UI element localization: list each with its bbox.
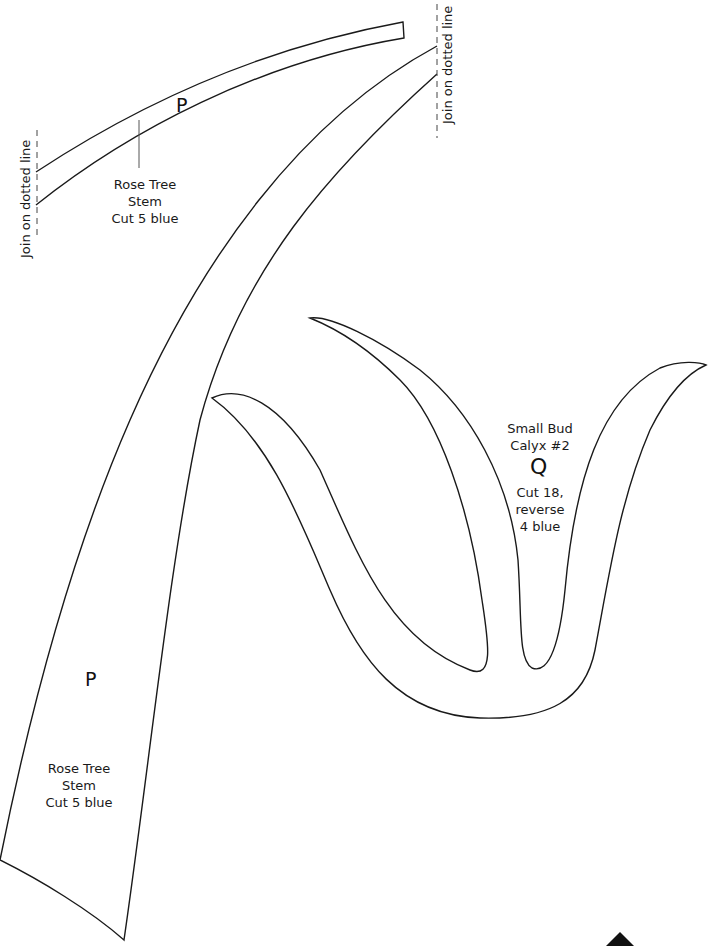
label-line: Small Bud — [490, 420, 590, 437]
label-line: Stem — [100, 193, 190, 210]
label-line: Cut 5 blue — [100, 210, 190, 227]
calyx-outline — [212, 318, 706, 718]
label-line: Stem — [34, 777, 124, 794]
piece-label-calyx-title: Small Bud Calyx #2 — [490, 420, 590, 454]
label-line: Rose Tree — [34, 760, 124, 777]
join-text-left: Join on dotted line — [18, 140, 33, 258]
join-text-right: Join on dotted line — [440, 6, 455, 124]
piece-label-upper-stem: Rose Tree Stem Cut 5 blue — [100, 176, 190, 227]
label-line: Cut 5 blue — [34, 794, 124, 811]
piece-letter-q: Q — [530, 454, 547, 479]
piece-letter-p-lower: P — [85, 668, 96, 690]
label-line: 4 blue — [490, 518, 590, 535]
label-line: Calyx #2 — [490, 437, 590, 454]
upper-stem-outline — [36, 22, 404, 205]
piece-label-lower-stem: Rose Tree Stem Cut 5 blue — [34, 760, 124, 811]
piece-letter-p-upper: P — [176, 94, 187, 116]
label-line: Cut 18, — [490, 484, 590, 501]
label-line: reverse — [490, 501, 590, 518]
label-line: Rose Tree — [100, 176, 190, 193]
registration-diamond-icon — [606, 932, 634, 946]
piece-label-calyx-instructions: Cut 18, reverse 4 blue — [490, 484, 590, 535]
